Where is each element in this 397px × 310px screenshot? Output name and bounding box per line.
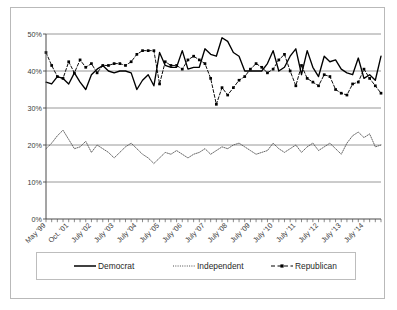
data-point-marker (62, 77, 65, 80)
data-point-marker (96, 72, 99, 75)
x-tick-label-July02: July '02 (69, 221, 92, 244)
x-tick-label-July09: July '09 (228, 221, 251, 244)
data-point-marker (312, 81, 315, 84)
data-point-marker (198, 59, 201, 62)
x-tick-label-July06: July '06 (160, 221, 183, 244)
data-point-marker (158, 83, 161, 86)
data-point-marker (90, 62, 93, 65)
x-tick-label-July10: July '10 (251, 221, 274, 244)
legend-item-republican-swatch-marker (280, 264, 283, 267)
data-point-marker (147, 49, 150, 52)
data-point-marker (260, 66, 263, 69)
data-point-marker (56, 75, 59, 78)
data-point-marker (67, 60, 70, 63)
y-tick-label-50: 50% (28, 30, 43, 39)
data-point-marker (306, 77, 309, 80)
x-tick-label-July05: July '05 (138, 221, 161, 244)
data-point-marker (73, 72, 76, 75)
y-tick-label-40: 40% (28, 67, 43, 76)
x-tick-label-May99: May '99 (23, 221, 47, 245)
data-point-marker (255, 62, 258, 65)
data-point-marker (215, 103, 218, 106)
data-point-marker (249, 68, 252, 71)
data-point-marker (232, 86, 235, 89)
data-point-marker (368, 77, 371, 80)
x-tick-label-July07: July '07 (183, 221, 206, 244)
data-point-marker (351, 83, 354, 86)
series-line-democrat (46, 38, 381, 90)
y-tick-label-10: 10% (28, 178, 43, 187)
data-point-marker (84, 66, 87, 69)
data-point-marker (192, 55, 195, 58)
data-point-marker (204, 62, 207, 65)
x-tick-label-July13: July '13 (319, 221, 342, 244)
data-point-marker (101, 64, 104, 67)
data-point-marker (346, 94, 349, 97)
data-point-marker (283, 53, 286, 56)
data-point-marker (181, 68, 184, 71)
data-point-marker (130, 60, 133, 63)
data-point-marker (164, 60, 167, 63)
data-point-marker (118, 62, 121, 65)
data-point-marker (209, 77, 212, 80)
legend-item-republican-label: Republican (295, 261, 337, 271)
data-point-marker (340, 92, 343, 95)
data-point-marker (329, 75, 332, 78)
data-point-marker (107, 64, 110, 67)
y-tick-label-20: 20% (28, 141, 43, 150)
x-tick-label-July03: July '03 (92, 221, 115, 244)
y-axis-tick-labels: 0%10%20%30%40%50% (28, 30, 43, 224)
data-point-marker (175, 64, 178, 67)
legend-item-democrat-label: Democrat (98, 261, 135, 271)
data-point-marker (221, 86, 224, 89)
data-point-marker (289, 70, 292, 73)
x-tick-label-July12: July '12 (297, 221, 320, 244)
x-tick-label-Oct01: Oct. '01 (46, 221, 70, 245)
data-point-marker (238, 79, 241, 82)
data-point-marker (170, 64, 173, 67)
x-tick-label-July08: July '08 (206, 221, 229, 244)
data-point-marker (113, 62, 116, 65)
series-markers-republican (45, 49, 383, 105)
data-point-marker (374, 84, 377, 87)
x-tick-label-July11: July '11 (274, 221, 297, 244)
data-point-marker (357, 81, 360, 84)
series-line-independent (46, 130, 381, 163)
data-point-marker (317, 84, 320, 87)
chart-legend: DemocratIndependentRepublican (36, 252, 356, 280)
data-point-marker (266, 72, 269, 75)
data-point-marker (79, 59, 82, 62)
chart-figure: 0%10%20%30%40%50% May '99Oct. '01July '0… (10, 7, 385, 299)
data-point-marker (187, 59, 190, 62)
x-tick-label-July14: July '14 (342, 221, 365, 244)
data-point-marker (124, 64, 127, 67)
data-point-marker (136, 53, 139, 56)
data-point-marker (272, 68, 275, 71)
data-point-marker (380, 92, 383, 95)
data-point-marker (50, 64, 53, 67)
data-point-marker (300, 64, 303, 67)
x-axis-tick-labels: May '99Oct. '01July '02July '03July '04J… (23, 221, 365, 245)
legend-item-independent-label: Independent (197, 261, 244, 271)
data-point-marker (243, 75, 246, 78)
data-point-marker (363, 68, 366, 71)
y-tick-label-30: 30% (28, 104, 43, 113)
data-point-marker (153, 49, 156, 52)
data-point-marker (334, 88, 337, 91)
data-point-marker (294, 84, 297, 87)
x-tick-label-July04: July '04 (115, 221, 138, 244)
data-point-marker (323, 73, 326, 76)
data-point-marker (226, 94, 229, 97)
data-point-marker (141, 49, 144, 52)
data-point-marker (277, 59, 280, 62)
